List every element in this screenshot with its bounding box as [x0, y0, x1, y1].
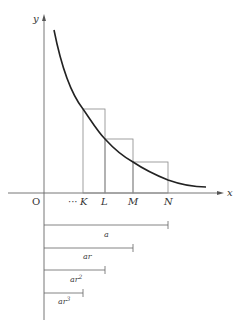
point-N-label: N — [163, 196, 174, 207]
segment-a-label: a — [104, 230, 109, 239]
ellipsis-label: ··· — [68, 196, 78, 207]
x-axis-arrow-icon — [217, 191, 224, 195]
point-K-label: K — [79, 196, 88, 207]
rect-L-M — [105, 139, 133, 193]
segment-ar3-label: ar3 — [58, 295, 71, 306]
segment-ar2-label: ar2 — [70, 273, 83, 284]
y-axis-label: y — [32, 13, 39, 24]
point-L-label: L — [100, 196, 108, 207]
origin-label: O — [32, 196, 40, 207]
y-axis-arrow-icon — [42, 14, 46, 21]
decreasing-curve — [54, 30, 206, 187]
x-axis-label: x — [227, 187, 233, 198]
point-M-label: M — [127, 196, 139, 207]
diagram-canvas: y x O ··· K L M N a ar ar2 ar3 — [0, 0, 242, 330]
segment-ar-label: ar — [83, 252, 93, 261]
rect-K-L — [83, 109, 105, 193]
